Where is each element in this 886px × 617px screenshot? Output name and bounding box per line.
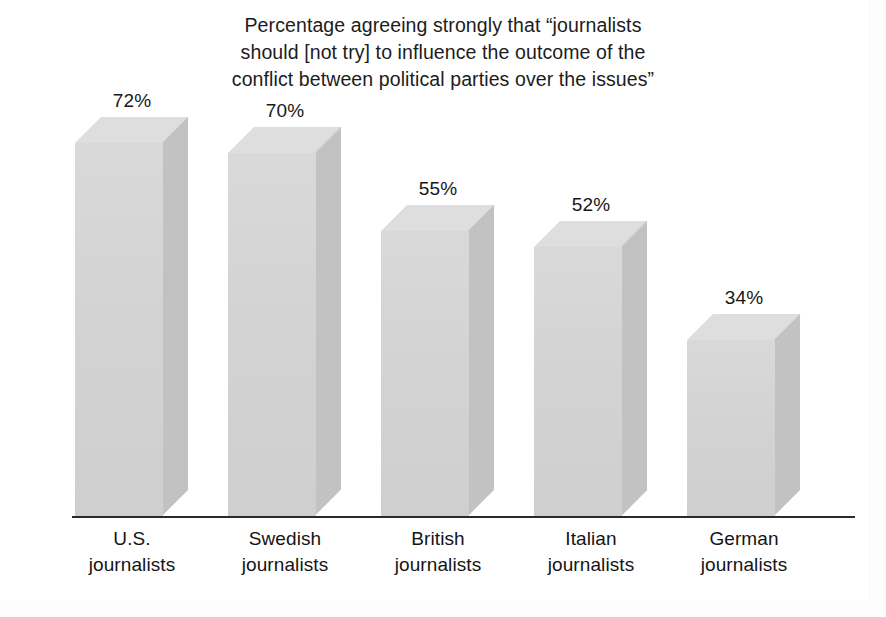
bar-front-face [381,231,469,516]
bar-value-label: 70% [225,100,345,122]
plot-area: 72%U.S.journalists70%Swedishjournalists5… [0,0,886,617]
bar-front-face [228,153,316,516]
bar-value-label: 72% [72,90,192,112]
bar-side-face [774,314,801,517]
bar-front-face [75,143,163,516]
bar-side-face [162,117,189,517]
bar-side-face [621,221,648,517]
category-label-5: Germanjournalists [654,526,834,578]
bar-1 [75,117,189,516]
bar-value-label: 52% [531,194,651,216]
bar-value-label: 55% [378,178,498,200]
bar-4 [534,221,648,516]
bar-3 [381,205,495,516]
chart-figure: Percentage agreeing strongly that “journ… [0,0,886,617]
bar-value-label: 34% [684,287,804,309]
bar-5 [687,314,801,516]
bar-front-face [534,247,622,516]
x-axis-baseline [72,516,855,518]
bar-2 [228,127,342,516]
bar-side-face [468,205,495,517]
bar-side-face [315,127,342,517]
bar-front-face [687,340,775,516]
